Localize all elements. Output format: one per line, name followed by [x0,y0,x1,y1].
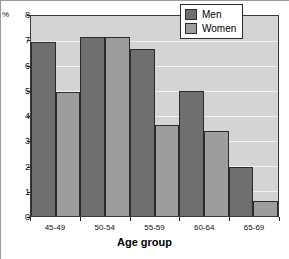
legend-label-women: Women [202,23,236,34]
y-axis-tick-mark [27,15,30,16]
x-axis-title: Age group [0,236,289,248]
legend-swatch-women [185,23,197,34]
legend-swatch-men [185,9,197,20]
y-axis-tick-mark [27,116,30,117]
bar-women-45-49 [56,92,81,216]
bar-group [80,16,129,216]
bar-men-45-49 [31,42,56,216]
legend: MenWomen [180,4,243,39]
legend-label-men: Men [202,9,221,20]
legend-item-men: Men [185,9,236,20]
bar-men-55-59 [130,49,155,217]
x-axis-tick-label: 65-69 [229,223,279,235]
x-axis-tick-label: 55-59 [130,223,180,235]
y-axis-tick-mark [27,141,30,142]
x-axis-tick-mark [279,217,280,221]
bar-group [31,16,80,216]
bar-women-50-54 [105,37,130,216]
bar-men-65-69 [229,167,254,216]
x-axis-tick-mark [80,217,81,221]
bar-women-60-64 [204,131,229,216]
y-axis-tick-mark [27,91,30,92]
bar-men-50-54 [80,37,105,216]
x-axis-tick-label: 50-54 [80,223,130,235]
x-axis-tick-mark [229,217,230,221]
x-axis-tick-label: 45-49 [30,223,80,235]
y-axis-tick-mark [27,66,30,67]
bar-women-55-59 [155,125,180,216]
legend-item-women: Women [185,23,236,34]
bar-group [229,16,278,216]
y-axis-tick-marks [27,15,30,217]
y-axis-tick-mark [27,167,30,168]
x-axis-tick-label: 60-64 [179,223,229,235]
bar-chart-figure: % 876543210 45-4950-5455-5960-6465-69 Ag… [0,0,289,259]
bar-group [179,16,228,216]
bar-groups [31,16,278,216]
y-axis-unit-label: % [2,10,9,19]
x-axis-tick-mark [30,217,31,221]
y-axis-tick-mark [27,40,30,41]
x-axis-tick-labels: 45-4950-5455-5960-6465-69 [30,223,279,235]
bar-men-60-64 [179,91,204,216]
x-axis-tick-marks [30,217,279,221]
x-axis-tick-mark [179,217,180,221]
y-axis-tick-mark [27,192,30,193]
x-axis-tick-mark [130,217,131,221]
bar-women-65-69 [253,201,278,216]
bar-group [130,16,179,216]
